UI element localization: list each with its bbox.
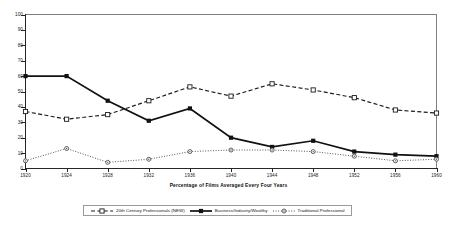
data-point-filled-square xyxy=(393,153,397,157)
data-point-open-square xyxy=(188,85,192,89)
series-traditional-professional xyxy=(24,146,439,164)
data-point-open-circle-dot xyxy=(229,148,233,152)
x-axis-title: Percentage of Films Averaged Every Four … xyxy=(0,183,457,188)
data-point-filled-square xyxy=(352,149,356,153)
legend-swatch-open-circle-dot-icon xyxy=(272,207,296,215)
series-line xyxy=(26,76,437,156)
data-point-open-circle-dot xyxy=(435,157,439,161)
data-point-open-square xyxy=(147,99,151,103)
data-point-filled-square xyxy=(147,119,151,123)
data-point-open-circle-dot xyxy=(65,146,69,150)
data-point-filled-square xyxy=(188,106,192,110)
data-point-open-circle-dot xyxy=(282,209,286,213)
data-point-open-square xyxy=(434,111,438,115)
series-business-industry-wealthy xyxy=(23,74,438,158)
data-point-filled-square xyxy=(311,139,315,143)
data-point-open-square xyxy=(65,117,69,121)
legend-entry[interactable]: 20th Century Professionals (NEW) xyxy=(88,206,187,215)
data-point-open-circle-dot xyxy=(352,154,356,158)
data-point-filled-square xyxy=(23,74,27,78)
data-point-filled-square xyxy=(65,74,69,78)
data-point-open-square xyxy=(100,208,104,212)
data-point-open-circle-dot xyxy=(393,159,397,163)
data-point-open-circle-dot xyxy=(188,150,192,154)
series-plot xyxy=(0,0,457,232)
legend-label: Business/Industry/Wealthy xyxy=(215,208,268,213)
data-point-filled-square xyxy=(229,136,233,140)
data-point-open-square xyxy=(393,108,397,112)
legend-label: Traditional Professional xyxy=(298,208,345,213)
data-point-open-circle-dot xyxy=(106,160,110,164)
legend-swatch-filled-square-icon xyxy=(189,207,213,215)
data-point-filled-square xyxy=(106,99,110,103)
data-point-open-square xyxy=(106,113,110,117)
legend-swatch-open-square-icon xyxy=(90,207,114,215)
data-point-open-square xyxy=(311,88,315,92)
data-point-open-square xyxy=(229,94,233,98)
chart-container: 0102030405060708090100 19201924192819321… xyxy=(0,0,457,232)
chart-legend: 20th Century Professionals (NEW)Business… xyxy=(83,205,352,216)
data-point-open-circle-dot xyxy=(147,157,151,161)
data-point-open-square xyxy=(352,96,356,100)
data-point-open-circle-dot xyxy=(24,159,28,163)
data-point-open-circle-dot xyxy=(270,148,274,152)
legend-label: 20th Century Professionals (NEW) xyxy=(116,208,185,213)
data-point-open-square xyxy=(23,109,27,113)
legend-entry[interactable]: Business/Industry/Wealthy xyxy=(187,206,270,215)
data-point-filled-square xyxy=(199,208,203,212)
data-point-open-square xyxy=(270,82,274,86)
data-point-open-circle-dot xyxy=(311,150,315,154)
legend-entry[interactable]: Traditional Professional xyxy=(270,206,347,215)
